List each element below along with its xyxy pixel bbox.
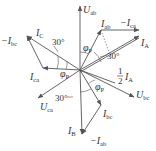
svg-text:IA: IA	[124, 71, 133, 83]
arc-30-bottom	[80, 89, 91, 92]
label-phi-top: φP	[83, 42, 93, 54]
label-half-I-A: 1 2 IA	[117, 66, 133, 86]
label-I-ab: Iab	[100, 18, 110, 30]
label-U-ca: Uca	[40, 101, 53, 113]
arc-30-top	[57, 56, 58, 69]
svg-text:1: 1	[118, 66, 123, 76]
phasor-diagram: Uab Iab −Ica IA IC −Ibc Ica Uca Ubc Ibc …	[0, 0, 156, 151]
label-I-B: IB	[67, 125, 76, 137]
label-30-top: 30°	[52, 37, 65, 47]
label-U-bc: Ubc	[136, 89, 149, 101]
label-U-ab: Uab	[83, 4, 96, 16]
label-neg-I-bc: −Ibc	[1, 35, 17, 47]
label-I-C: IC	[35, 27, 44, 39]
label-I-ca: Ica	[29, 71, 39, 83]
label-30-bottom: 30°	[55, 93, 68, 103]
vector-I-B	[80, 70, 82, 134]
label-I-bc: Ibc	[102, 108, 113, 120]
label-I-A: IA	[140, 37, 149, 49]
arc-phi-bottom	[88, 80, 95, 84]
projection-dash	[101, 30, 109, 52]
label-30-right: 30°	[107, 51, 120, 61]
svg-text:2: 2	[118, 76, 123, 86]
label-neg-I-ca: −Ica	[120, 17, 136, 29]
label-phi-bottom: φP	[95, 81, 105, 93]
vector-neg-I-ab	[82, 105, 101, 134]
label-neg-I-ab: −Iab	[90, 135, 106, 147]
arc-phi-left	[66, 61, 67, 69]
